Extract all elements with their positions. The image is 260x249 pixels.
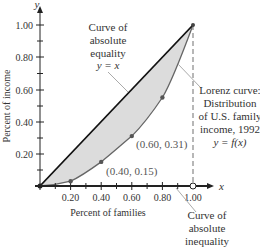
data-point — [68, 179, 72, 183]
lorenz-label-line: of U.S. family — [199, 110, 260, 122]
point-label-060: (0.60, 0.31) — [136, 138, 188, 151]
lorenz-label-line: income, 1992 — [200, 123, 260, 135]
top-right-point — [191, 23, 195, 27]
data-point — [160, 95, 164, 99]
x-tick-label: 0.40 — [92, 192, 110, 203]
x-tick-label: 0.60 — [123, 192, 141, 203]
y-tick-label: 0.20 — [16, 149, 34, 160]
y-tick-label: 1.00 — [16, 20, 34, 31]
origin-point — [38, 184, 43, 189]
y-tick-label: 0.40 — [16, 117, 34, 128]
inequality-label-line: Curve of — [188, 209, 227, 221]
lorenz-label-line: Lorenz curve: — [199, 84, 260, 96]
inequality-label-line: absolute — [189, 222, 226, 234]
inequality-endpoint-open-circle — [190, 183, 196, 189]
x-tick-label: 0.20 — [62, 192, 80, 203]
point-label-040: (0.40, 0.15) — [106, 165, 158, 178]
lorenz-curve-chart: y x 1.00 0.80 0.60 0.40 0.20 0.20 0. — [0, 0, 260, 249]
equality-equation: y = x — [96, 59, 120, 71]
x-axis-title: Percent of families — [70, 207, 146, 218]
equality-label-line: equality — [90, 47, 126, 59]
lorenz-annotation: Lorenz curve: Distribution of U.S. famil… — [199, 84, 260, 149]
x-axis-arrow-icon — [207, 183, 214, 189]
equality-label-line: absolute — [90, 34, 127, 46]
y-axis-title: Percent of income — [1, 69, 12, 142]
equality-leader-line — [108, 72, 128, 92]
inequality-label-line: inequality — [185, 235, 229, 247]
inequality-annotation: Curve of absolute inequality — [185, 209, 229, 247]
data-point — [99, 160, 103, 164]
equality-annotation: Curve of absolute equality y = x — [89, 21, 128, 71]
data-point — [130, 134, 134, 138]
y-tick-label: 0.60 — [16, 85, 34, 96]
lorenz-leader-line — [178, 64, 201, 88]
y-tick-labels: 1.00 0.80 0.60 0.40 0.20 — [16, 20, 34, 160]
x-axis-symbol: x — [218, 180, 224, 192]
x-tick-label: 0.80 — [154, 192, 172, 203]
equality-label-line: Curve of — [89, 21, 128, 33]
y-axis-symbol: y — [34, 0, 40, 10]
lorenz-label-line: Distribution — [203, 97, 257, 109]
lorenz-equation: y = f(x) — [212, 136, 246, 149]
y-tick-label: 0.80 — [16, 52, 34, 63]
